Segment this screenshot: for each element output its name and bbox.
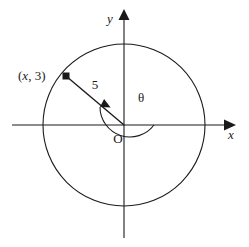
angle-label: θ <box>138 90 144 105</box>
angle-arc-arrowhead <box>100 99 111 108</box>
radius-length-label: 5 <box>92 77 99 92</box>
y-axis-arrowhead <box>119 9 130 20</box>
point-label-rest: , 3) <box>28 68 45 83</box>
terminal-point-marker <box>63 73 70 80</box>
y-axis-label: y <box>105 11 113 26</box>
figure-canvas: y x O 5 θ (x, 3) <box>0 0 249 247</box>
origin-label: O <box>113 131 122 146</box>
x-axis-label: x <box>227 127 234 142</box>
point-coordinate-label: (x, 3) <box>18 68 45 83</box>
circle-diagram-figure: y x O 5 θ (x, 3) <box>0 0 249 247</box>
